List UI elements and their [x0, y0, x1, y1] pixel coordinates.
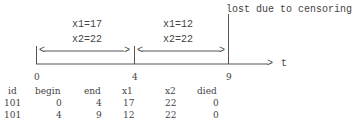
- cell-x2: 22: [165, 98, 176, 108]
- cell-begin: 0: [56, 98, 62, 108]
- cell-end: 4: [96, 98, 102, 108]
- cell-died: 0: [213, 110, 219, 120]
- axis-label-t: t: [281, 59, 287, 69]
- cell-died: 0: [213, 98, 219, 108]
- interval-2-left-arrowhead: <: [137, 46, 143, 56]
- censoring-label: lost due to censoring: [226, 5, 352, 15]
- axis-arrowhead: >: [267, 59, 273, 69]
- cell-x1: 17: [123, 98, 134, 108]
- header-x2: x2: [165, 86, 176, 96]
- cell-begin: 4: [56, 110, 62, 120]
- cell-end: 9: [96, 110, 102, 120]
- cell-id: 101: [4, 110, 21, 120]
- header-end: end: [84, 86, 101, 96]
- interval-1-x1-label: x1=17: [72, 20, 102, 30]
- tick-9: 9: [226, 72, 232, 82]
- tick-0: 0: [34, 72, 40, 82]
- interval-2-x2-label: x2=22: [163, 35, 193, 45]
- header-x1: x1: [122, 86, 133, 96]
- interval-1-left-arrowhead: <: [39, 46, 45, 56]
- cell-id: 101: [4, 98, 21, 108]
- interval-1-x2-label: x2=22: [72, 35, 102, 45]
- header-died: died: [197, 86, 217, 96]
- header-id: id: [8, 86, 17, 96]
- interval-2-x1-label: x1=12: [163, 20, 193, 30]
- header-begin: begin: [35, 86, 61, 96]
- cell-x1: 12: [123, 110, 134, 120]
- cell-x2: 22: [165, 110, 176, 120]
- tick-4: 4: [132, 72, 138, 82]
- interval-2-right-arrowhead: >: [219, 46, 225, 56]
- interval-1-right-arrowhead: >: [124, 46, 130, 56]
